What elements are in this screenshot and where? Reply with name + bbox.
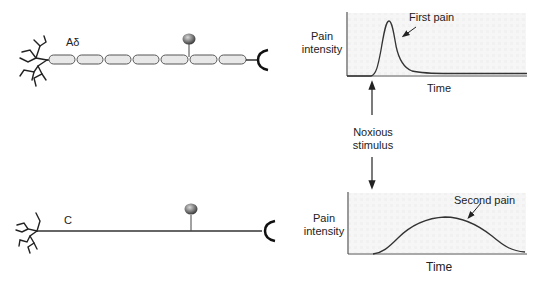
second-pain-ylabel: Pain intensity [302,212,346,238]
stimulus-line-1: Noxious [345,126,401,139]
free-nerve-ending-icon [16,213,40,253]
free-nerve-ending-icon [20,36,47,86]
second-pain-xlabel: Time [426,261,452,274]
a-delta-fiber [20,34,268,87]
first-pain-annotation: First pain [409,11,454,24]
stimulus-line-2: stimulus [345,139,401,152]
axon-terminal-icon [265,221,275,241]
cell-body-icon [183,34,196,45]
c-fiber-label: C [64,214,72,227]
second-pain-annotation: Second pain [454,194,515,207]
axon-terminal-icon [258,50,268,70]
ylabel-line-2: intensity [302,225,346,238]
ylabel-line-1: Pain [302,212,346,225]
a-delta-fiber-label: Aδ [66,36,79,49]
ylabel-line-2: intensity [298,43,346,56]
diagram-canvas [0,0,541,286]
ylabel-line-1: Pain [298,30,346,43]
stimulus-label: Noxious stimulus [345,126,401,152]
c-fiber [16,204,275,254]
first-pain-xlabel: Time [427,82,451,95]
myelin-sheath [49,55,246,64]
cell-body-icon [185,204,198,215]
first-pain-ylabel: Pain intensity [298,30,346,56]
